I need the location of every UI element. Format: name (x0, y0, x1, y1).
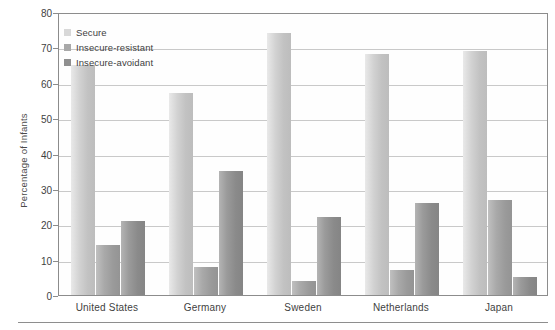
bar (169, 93, 193, 295)
bar (292, 281, 316, 295)
legend-label-insecure-resistant: Insecure-resistant (76, 42, 153, 53)
bar-group (353, 14, 451, 295)
bar (365, 54, 389, 295)
y-tick-label: 50 (8, 114, 52, 125)
bar (267, 33, 291, 295)
x-tick-label: Japan (450, 302, 548, 313)
bar-group (157, 14, 255, 295)
legend-label-secure: Secure (76, 27, 107, 38)
y-tick-label: 70 (8, 43, 52, 54)
y-axis-title: Percentage of Infants (18, 81, 29, 241)
bar (463, 51, 487, 295)
bottom-rule (18, 322, 548, 323)
bar (415, 203, 439, 295)
y-tick-label: 20 (8, 220, 52, 231)
y-tick-label: 60 (8, 78, 52, 89)
y-tick-label: 30 (8, 184, 52, 195)
bar (71, 65, 95, 295)
legend: Secure Insecure-resistant Insecure-avoid… (64, 26, 153, 71)
y-tick-label: 40 (8, 149, 52, 160)
y-tick-label: 10 (8, 255, 52, 266)
bar (194, 267, 218, 295)
bar (513, 277, 537, 295)
y-tick-label: 80 (8, 8, 52, 19)
x-tick-label: Germany (156, 302, 254, 313)
x-tick-label: United States (58, 302, 156, 313)
y-tick-mark (53, 296, 58, 297)
bar-group (255, 14, 353, 295)
bar (317, 217, 341, 295)
bar-chart: Percentage of Infants 01020304050607080 … (0, 0, 555, 330)
legend-item-insecure-resistant: Insecure-resistant (64, 41, 153, 54)
legend-item-secure: Secure (64, 26, 153, 39)
legend-swatch-insecure-avoidant (64, 59, 71, 66)
x-tick-label: Sweden (254, 302, 352, 313)
bar (219, 171, 243, 295)
bar (390, 270, 414, 295)
bar (121, 221, 145, 295)
x-tick-label: Netherlands (352, 302, 450, 313)
y-tick-label: 0 (8, 291, 52, 302)
legend-swatch-insecure-resistant (64, 44, 71, 51)
bar (488, 200, 512, 296)
bar (96, 245, 120, 295)
legend-label-insecure-avoidant: Insecure-avoidant (76, 57, 153, 68)
legend-swatch-secure (64, 29, 71, 36)
bar-group (451, 14, 549, 295)
legend-item-insecure-avoidant: Insecure-avoidant (64, 56, 153, 69)
